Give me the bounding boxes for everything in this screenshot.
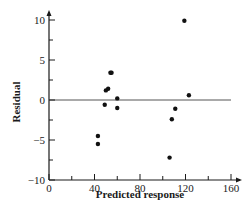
data-point: [182, 19, 186, 23]
data-point: [187, 93, 191, 97]
data-point: [167, 155, 171, 159]
data-point: [96, 142, 100, 146]
data-points: [96, 19, 191, 160]
axes: [47, 10, 243, 183]
y-tick-label: 5: [40, 54, 46, 66]
data-point: [173, 107, 177, 111]
data-point: [103, 103, 107, 107]
y-tick-label: 0: [40, 94, 46, 106]
data-point: [170, 117, 174, 121]
y-tick-label: −10: [28, 174, 46, 186]
residual-scatter-chart: 04080120160 −10−50510 Predicted response…: [0, 0, 248, 208]
y-axis-arrow-icon: [47, 10, 52, 16]
data-point: [106, 87, 110, 91]
data-point: [109, 71, 113, 75]
data-point: [96, 134, 100, 138]
y-tick-label: 10: [34, 14, 46, 26]
y-axis-label: Residual: [10, 82, 22, 123]
data-point: [115, 106, 119, 110]
x-tick-label: 0: [46, 182, 52, 194]
y-tick-label: −5: [33, 134, 45, 146]
y-axis-ticks: −10−50510: [28, 14, 55, 186]
data-point: [115, 96, 119, 100]
x-tick-label: 160: [223, 182, 240, 194]
x-axis-label: Predicted response: [96, 188, 185, 200]
